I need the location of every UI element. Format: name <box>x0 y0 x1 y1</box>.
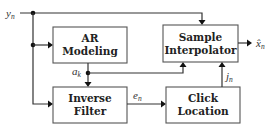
input-to-interpolator-line <box>20 13 202 21</box>
arrow-right-icon <box>48 101 53 108</box>
ar-modeling-block: AR Modeling <box>53 27 127 63</box>
arrow-up-icon <box>219 62 226 67</box>
arrow-down-icon <box>199 20 206 25</box>
arrow-right-icon <box>247 40 252 47</box>
arrow-up-icon <box>180 62 187 67</box>
ar-modeling-label-line1: AR <box>81 32 99 44</box>
arrow-right-icon <box>161 101 166 108</box>
click-location-label-line1: Click <box>188 92 219 104</box>
inverse-filter-block: Inverse Filter <box>53 87 127 123</box>
click-location-label-line2: Location <box>177 105 228 117</box>
click-location-block: Click Location <box>166 87 240 123</box>
arrow-down-icon <box>85 82 92 87</box>
inverse-filter-label-line1: Inverse <box>68 92 112 104</box>
arrow-right-icon <box>48 42 53 49</box>
ar-modeling-label-line2: Modeling <box>62 45 118 57</box>
sample-interpolator-block: Sample Interpolator <box>163 25 238 62</box>
ar-coeffs-label: ak <box>72 65 82 79</box>
ar-to-interpolator-line <box>88 66 183 73</box>
click-positions-label: jn <box>224 70 233 84</box>
input-signal-label: yn <box>5 7 15 21</box>
inverse-filter-label-line2: Filter <box>74 105 107 117</box>
input-trunk-line <box>33 13 49 104</box>
block-diagram: yn AR Modeling ak Sample Interpolator x̂… <box>0 0 276 133</box>
sample-interpolator-label-line1: Sample <box>179 31 223 43</box>
sample-interpolator-label-line2: Interpolator <box>164 44 237 56</box>
residual-signal-label: en <box>133 89 142 103</box>
output-signal-label: x̂n <box>255 37 265 51</box>
